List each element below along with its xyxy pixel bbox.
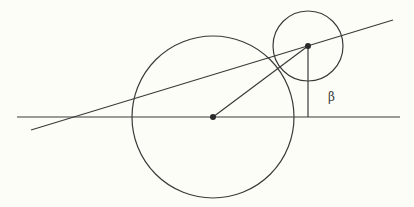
angle-label-beta: β: [328, 90, 335, 104]
large-circle-center-point: [210, 114, 216, 120]
small-circle-center-point: [305, 43, 311, 49]
geometry-figure: β: [0, 0, 414, 207]
diagram-canvas: β: [0, 0, 414, 207]
